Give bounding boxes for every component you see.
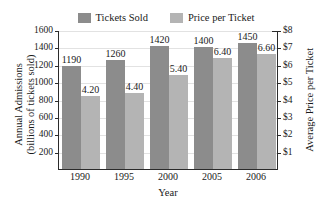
- bar-group: [62, 66, 100, 169]
- plot-area: 2004006008001000120014001600$1$2$3$4$5$6…: [58, 31, 278, 170]
- right-axis-tick-label: $5: [283, 78, 293, 88]
- x-axis-tick-label: 2005: [202, 172, 222, 182]
- left-axis-tick: [55, 48, 59, 49]
- left-axis-tick-label: 400: [39, 130, 53, 140]
- right-axis-tick-label: $1: [283, 148, 293, 158]
- left-y-axis-title-line2: (billions of tickets sold): [24, 35, 36, 175]
- chart-legend: Tickets Sold Price per Ticket: [0, 11, 332, 25]
- left-axis-tick: [55, 83, 59, 84]
- left-axis-tick: [55, 118, 59, 119]
- x-axis-title: Year: [58, 188, 278, 199]
- right-axis-tick: [277, 135, 281, 136]
- bar-tickets-sold: [62, 66, 81, 169]
- right-axis-tick-label: $6: [283, 61, 293, 71]
- bar-value-label: 1190: [62, 55, 82, 65]
- legend-swatch-price-per-ticket: [170, 13, 183, 23]
- right-axis-tick-label: $2: [283, 130, 293, 140]
- left-axis-tick: [55, 135, 59, 136]
- left-y-axis-title: Annual Admissions (billions of tickets s…: [13, 35, 36, 175]
- right-axis-tick: [277, 118, 281, 119]
- right-axis-tick-label: $3: [283, 113, 293, 123]
- left-axis-tick: [55, 31, 59, 32]
- bar-chart: Tickets Sold Price per Ticket 2004006008…: [0, 0, 332, 207]
- left-axis-tick-label: 1000: [34, 78, 53, 88]
- left-axis-tick-label: 1400: [34, 43, 53, 53]
- bar-value-label: 1260: [106, 49, 126, 59]
- legend-label-price-per-ticket: Price per Ticket: [188, 13, 255, 24]
- bar-price-per-ticket: [257, 54, 276, 169]
- bar-group: [150, 46, 188, 169]
- x-axis-tick-label: 1990: [70, 172, 90, 182]
- right-axis-tick: [277, 153, 281, 154]
- bar-tickets-sold: [194, 47, 213, 169]
- bar-value-label: 1450: [238, 32, 258, 42]
- bar-price-per-ticket: [125, 93, 144, 169]
- x-axis-tick-label: 1995: [114, 172, 134, 182]
- x-axis-tick-label: 2006: [246, 172, 266, 182]
- legend-item-tickets-sold: Tickets Sold: [78, 13, 148, 24]
- left-axis-tick: [55, 101, 59, 102]
- left-axis-tick-label: 200: [39, 148, 53, 158]
- x-axis-tick-label: 2000: [158, 172, 178, 182]
- right-axis-tick-label: $4: [283, 96, 293, 106]
- right-axis-tick: [277, 83, 281, 84]
- bar-group: [194, 47, 232, 169]
- bar-value-label: 1400: [194, 36, 214, 46]
- left-axis-tick: [55, 153, 59, 154]
- right-axis-tick: [277, 66, 281, 67]
- x-axis-tick-labels: 19901995200020052006: [58, 172, 278, 184]
- bar-value-label: 1420: [150, 35, 170, 45]
- bar-price-per-ticket: [81, 96, 100, 169]
- bar-price-per-ticket: [169, 75, 188, 169]
- right-axis-tick-label: $7: [283, 43, 293, 53]
- legend-label-tickets-sold: Tickets Sold: [96, 13, 148, 24]
- bar-group: [238, 43, 276, 169]
- bar-tickets-sold: [106, 60, 125, 169]
- left-y-axis-title-line1: Annual Admissions: [13, 63, 24, 146]
- right-axis-tick: [277, 31, 281, 32]
- legend-swatch-tickets-sold: [78, 13, 91, 23]
- right-y-axis-title: Average Price per Ticket: [304, 30, 316, 170]
- bar-tickets-sold: [150, 46, 169, 169]
- left-axis-tick-label: 800: [39, 96, 53, 106]
- legend-item-price-per-ticket: Price per Ticket: [170, 13, 255, 24]
- left-axis-tick-label: 1200: [34, 61, 53, 71]
- left-axis-tick: [55, 66, 59, 67]
- bar-price-per-ticket: [213, 58, 232, 169]
- bar-group: [106, 60, 144, 169]
- right-axis-tick: [277, 101, 281, 102]
- right-axis-tick: [277, 48, 281, 49]
- bar-tickets-sold: [238, 43, 257, 169]
- right-axis-tick-label: $8: [283, 26, 293, 36]
- left-axis-tick-label: 600: [39, 113, 53, 123]
- left-axis-tick-label: 1600: [34, 26, 53, 36]
